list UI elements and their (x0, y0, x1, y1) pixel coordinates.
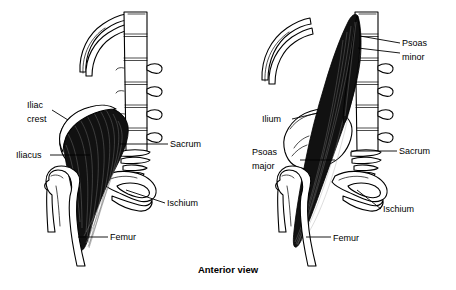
ischium-pubis-right (332, 171, 387, 211)
ribs-right (262, 18, 313, 84)
anterior-view-anatomy-figure: Iliac crest Iliacus Sacrum Ischium Femur… (0, 0, 456, 290)
label-psoas-major-line1: Psoas (252, 147, 278, 157)
label-sacrum-right: Sacrum (399, 146, 430, 156)
label-psoas-minor-line1: Psoas (402, 38, 428, 48)
left-panel-iliacus-figure (45, 12, 168, 266)
label-sacrum-left: Sacrum (170, 139, 201, 149)
label-femur-left: Femur (110, 232, 136, 242)
label-iliac-crest-line1: Iliac (27, 100, 44, 110)
label-psoas-major-line2: major (252, 161, 275, 171)
label-iliacus: Iliacus (16, 150, 42, 160)
label-femur-right: Femur (333, 233, 359, 243)
right-panel-psoas-figure (262, 12, 400, 266)
label-ischium-left: Ischium (167, 198, 198, 208)
label-psoas-minor-line2: minor (402, 52, 425, 62)
label-ilium: Ilium (262, 114, 281, 124)
figure-caption: Anterior view (198, 264, 259, 275)
label-ischium-right: Ischium (383, 204, 414, 214)
ribs-left (80, 14, 129, 76)
label-iliac-crest-line2: crest (27, 114, 47, 124)
